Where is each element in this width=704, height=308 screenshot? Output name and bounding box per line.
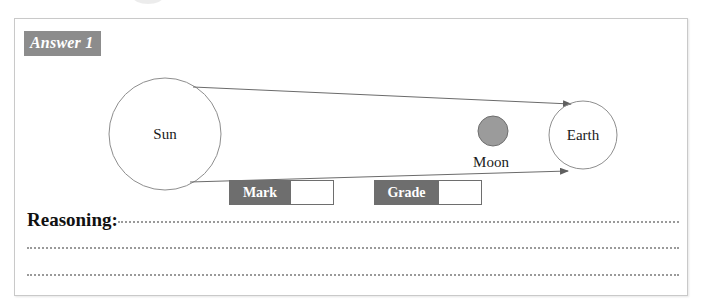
reasoning-label: Reasoning:: [27, 209, 118, 231]
page-top-artifact: [133, 0, 163, 4]
grade-label: Grade: [375, 181, 438, 204]
reasoning-row: Reasoning:: [27, 209, 679, 231]
reasoning-write-line-1[interactable]: [118, 220, 679, 223]
reasoning-write-line-2[interactable]: [27, 246, 679, 249]
sun-label: Sun: [153, 126, 177, 142]
mark-field-group: Mark: [229, 180, 334, 205]
answer-panel: Answer 1 Sun Moon Earth Mark Grade Reaso…: [14, 18, 688, 296]
grade-field-group: Grade: [374, 180, 482, 205]
grade-input[interactable]: [438, 181, 481, 204]
eclipse-diagram: Sun Moon Earth: [15, 19, 689, 199]
moon-label: Moon: [473, 154, 509, 170]
mark-input[interactable]: [290, 181, 333, 204]
ray-upper: [193, 87, 571, 104]
earth-label: Earth: [567, 127, 600, 143]
mark-label: Mark: [230, 181, 290, 204]
moon-circle: [478, 116, 508, 146]
reasoning-write-line-3[interactable]: [27, 273, 679, 276]
